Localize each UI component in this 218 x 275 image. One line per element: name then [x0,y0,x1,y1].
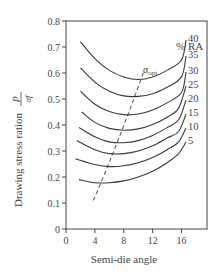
y-axis-label: Drawing stress ration p σ̄f [8,92,33,207]
curve-ra-30 [80,72,186,115]
x-tick-label: 12 [148,235,158,246]
curve-label-ra-25: 25 [188,79,199,90]
x-tick-label: 16 [177,235,187,246]
legend-title: % RA [176,40,203,52]
curve-label-ra-20: 20 [188,93,199,104]
y-axis-label-text: Drawing stress ration [12,112,24,207]
curve-label-ra-10: 10 [188,121,199,132]
y-tick-label: 0.2 [48,172,61,183]
chart-svg: 00.10.20.30.40.50.60.70.80481216 4035302… [0,0,218,275]
x-tick-label: 4 [92,235,97,246]
curve-label-ra-30: 30 [188,65,199,76]
y-tick-label: 0.5 [48,94,61,105]
y-tick-label: 0.4 [48,120,61,131]
alpha-subscript: opt [148,69,157,77]
curve-label-ra-15: 15 [188,107,199,118]
curves: 403530252015105 [75,33,198,183]
x-axis-label: Semi-die angle [91,253,157,265]
y-tick-label: 0 [55,224,60,235]
y-axis-label-denominator: σ̄f [23,94,33,102]
x-tick-label: 8 [121,235,126,246]
alpha-opt-label: αopt [143,64,157,77]
y-tick-label: 0.7 [48,42,61,53]
y-axis-label-numerator: p [8,96,20,103]
curve-ra-40 [80,40,186,80]
y-tick-label: 0.8 [48,16,61,27]
y-tick-label: 0.6 [48,68,61,79]
plot-frame [66,21,207,229]
y-tick-label: 0.3 [48,146,61,157]
chart-container: 00.10.20.30.40.50.60.70.80481216 4035302… [0,0,218,275]
y-tick-label: 0.1 [48,198,61,209]
x-tick-label: 0 [64,235,69,246]
curve-label-ra-5: 5 [188,135,193,146]
curve-ra-25 [82,86,186,130]
curve-ra-35 [80,56,186,97]
